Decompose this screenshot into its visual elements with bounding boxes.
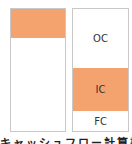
caption: キャッシュフロー計算書 <box>0 134 132 144</box>
left-box-blank-segment <box>11 38 65 131</box>
left-box-highlight-segment <box>11 9 65 38</box>
ic-segment: IC <box>73 68 128 111</box>
right-box: OC IC FC <box>72 8 129 132</box>
left-box <box>10 8 66 132</box>
oc-segment: OC <box>73 9 128 68</box>
fc-segment: FC <box>73 111 128 131</box>
